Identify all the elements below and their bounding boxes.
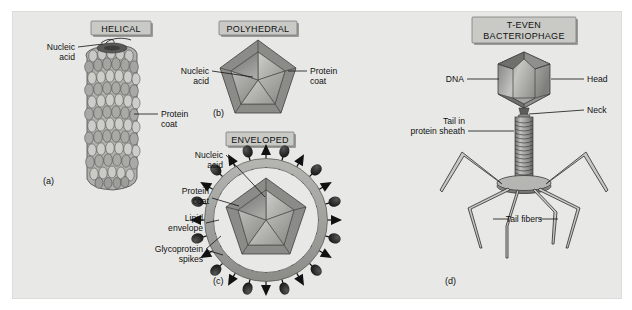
label-line-1: DNA — [446, 74, 464, 84]
label-line-2: acid — [193, 76, 209, 86]
panel-letter-d: (d) — [445, 276, 456, 286]
panel-helical: HELICAL — [43, 21, 188, 190]
virus-morphology-figure: HELICAL — [0, 0, 632, 310]
label-phage-tail-fibers: Tail fibers — [493, 214, 558, 224]
label-line-2: acid — [207, 160, 223, 170]
label-line-1: Protein — [161, 109, 188, 119]
label-phage-neck: Neck — [529, 105, 607, 115]
label-line-1: Glycoprotein — [155, 244, 203, 254]
helical-capsid — [85, 43, 140, 190]
label-line-2: acid — [59, 52, 75, 62]
label-line-1: Head — [587, 74, 608, 84]
banner-enveloped-text: ENVELOPED — [231, 135, 289, 145]
enveloped-capsid — [226, 178, 306, 254]
label-line-2: coat — [161, 119, 178, 129]
label-line-2: spikes — [179, 254, 203, 264]
banner-polyhedral-text: POLYHEDRAL — [227, 24, 290, 34]
bacteriophage-body — [440, 52, 608, 258]
banner-polyhedral: POLYHEDRAL — [219, 21, 299, 37]
label-line-1: Nucleic — [181, 66, 210, 76]
label-line-1: Tail fibers — [506, 214, 542, 224]
banner-bacteriophage-line2: BACTERIOPHAGE — [483, 31, 564, 41]
banner-helical-text: HELICAL — [101, 24, 141, 34]
figure-canvas: HELICAL — [13, 12, 619, 296]
label-helical-protein-coat: Protein coat — [134, 109, 188, 129]
phage-tail-sheath — [515, 117, 533, 185]
label-line-2: protein sheath — [411, 126, 466, 136]
label-line-1: Neck — [587, 105, 607, 115]
banner-helical: HELICAL — [91, 21, 153, 37]
label-line-1: Protein — [182, 186, 209, 196]
banner-bacteriophage-line1: T-EVEN — [507, 20, 541, 30]
phage-head — [498, 52, 550, 108]
label-phage-tail-sheath: Tail in protein sheath — [411, 116, 514, 136]
leader-line — [529, 110, 584, 114]
label-line-1: Nucleic — [47, 42, 76, 52]
label-line-1: Lipid — [185, 213, 203, 223]
panel-letter-a: (a) — [43, 176, 54, 186]
panel-polyhedral: POLYHEDRAL — [181, 21, 338, 118]
label-line-1: Tail in — [443, 116, 465, 126]
polyhedral-capsid — [220, 40, 296, 113]
panel-letter-b: (b) — [213, 108, 224, 118]
panel-enveloped: ENVELOPED — [155, 132, 342, 296]
label-line-1: Protein — [310, 66, 337, 76]
panel-bacteriophage: T-EVEN BACTERIOPHAGE — [411, 17, 608, 286]
label-line-2: envelope — [168, 223, 203, 233]
figure-panel: HELICAL — [12, 11, 622, 299]
phage-neck — [518, 108, 530, 118]
label-phage-head: Head — [551, 74, 608, 84]
panel-letter-c: (c) — [213, 276, 224, 286]
label-line-2: coat — [310, 76, 327, 86]
label-phage-dna: DNA — [446, 74, 499, 84]
label-line-2: coat — [193, 196, 210, 206]
label-line-1: Nucleic — [195, 150, 224, 160]
banner-bacteriophage: T-EVEN BACTERIOPHAGE — [472, 17, 578, 45]
